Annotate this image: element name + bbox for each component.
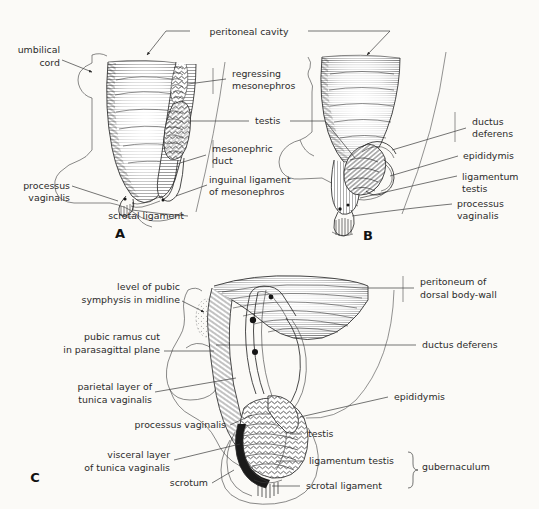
label-testis-c: testis [308,428,334,439]
label-mesonephric-duct-line1: mesonephric [212,143,273,154]
label-peritoneum-dorsal-line2: dorsal body-wall [420,289,497,300]
panel-letter-a: A [115,226,125,241]
label-processus-vaginalis-c: processus vaginalis [135,419,227,430]
label-peritoneal-cavity: peritoneal cavity [210,26,289,37]
label-level-pubic-symphysis-line1: level of pubic [117,281,180,292]
label-scrotal-ligament-c: scrotal ligament [306,480,382,491]
figure-canvas: umbilical cord regressing mesonephros te… [0,0,539,509]
label-gubernaculum: gubernaculum [422,461,490,472]
label-scrotum: scrotum [170,477,208,488]
panel-c-duct-section-1 [250,317,256,323]
anatomical-figure: umbilical cord regressing mesonephros te… [0,0,539,509]
label-scrotal-ligament-a: scrotal ligament [108,210,184,221]
label-regressing-mesonephros-line1: regressing [232,68,281,79]
panel-letter-b: B [363,228,373,243]
panel-c-duct-section-3 [269,295,274,300]
label-processus-vaginalis-a-line1: processus [23,180,70,191]
label-epididymis-b: epididymis [463,150,514,161]
label-processus-vaginalis-a-line2: vaginalis [28,192,70,203]
label-umbilical-cord-line1: umbilical [18,44,60,55]
label-epididymis-c: epididymis [394,391,445,402]
label-ductus-deferens-b-line1: ductus [472,116,504,127]
label-processus-vaginalis-b-line1: processus [457,198,504,209]
label-ductus-deferens-c: ductus deferens [422,339,498,350]
label-umbilical-cord-line2: cord [39,57,60,68]
panel-letter-c: C [30,470,40,485]
label-peritoneum-dorsal-line1: peritoneum of [420,276,487,287]
label-ligamentum-testis-b-line1: ligamentum [462,171,519,182]
label-testis-a: testis [255,115,281,126]
label-processus-vaginalis-b-line2: vaginalis [457,210,499,221]
label-pubic-ramus-line2: in parasagittal plane [63,344,160,355]
label-ligamentum-testis-b-line2: testis [462,183,488,194]
label-pubic-ramus-line1: pubic ramus cut [84,331,160,342]
label-parietal-layer-line2: tunica vaginalis [78,394,152,405]
label-ductus-deferens-b-line2: deferens [472,128,513,139]
label-parietal-layer-line1: parietal layer of [78,381,153,392]
panel-c-duct-section-2 [252,349,258,355]
label-visceral-layer-line1: visceral layer [107,449,170,460]
label-inguinal-ligament-line2: of mesonephros [209,186,285,197]
label-level-pubic-symphysis-line2: symphysis in midline [82,294,181,305]
label-regressing-mesonephros-line2: mesonephros [232,80,296,91]
label-visceral-layer-line2: of tunica vaginalis [84,462,170,473]
label-inguinal-ligament-line1: inguinal ligament [209,174,291,185]
label-ligamentum-testis-c: ligamentum testis [309,455,394,466]
label-mesonephric-duct-line2: duct [212,155,233,166]
